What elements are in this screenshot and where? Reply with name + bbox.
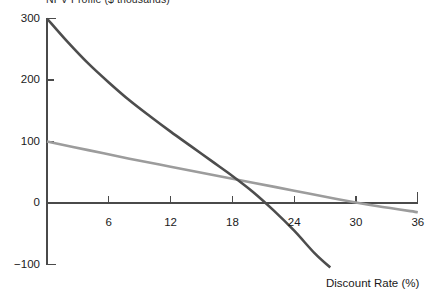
y-tick-label: −100 (0, 258, 40, 270)
x-tick-label: 18 (217, 216, 247, 228)
series-line (47, 19, 330, 268)
data-series (47, 19, 418, 268)
y-tick-label: 200 (0, 73, 40, 85)
x-tick-label: 6 (94, 216, 124, 228)
y-tick-label: 0 (0, 196, 40, 208)
x-axis-title: Discount Rate (%) (326, 277, 419, 289)
x-tick-label: 30 (341, 216, 371, 228)
npv-profile-chart: NPV Profile ($ thousands) −1000100200300… (0, 0, 435, 303)
y-tick-label: 100 (0, 135, 40, 147)
x-tick-label: 24 (279, 216, 309, 228)
x-tick-label: 12 (156, 216, 186, 228)
x-tick-label: 36 (403, 216, 433, 228)
y-tick-label: 300 (0, 12, 40, 24)
chart-plot-area (0, 0, 435, 303)
